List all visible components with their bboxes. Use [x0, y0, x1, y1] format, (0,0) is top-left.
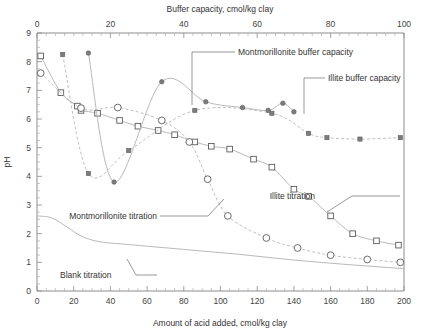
- data-point: [204, 100, 209, 105]
- annotation-mont-titration: Montmorillonite titration: [69, 211, 157, 221]
- data-point: [306, 131, 310, 135]
- data-point: [135, 123, 141, 129]
- tick-label: 7: [26, 85, 31, 95]
- y-axis-title: pH: [2, 157, 12, 168]
- data-point: [350, 231, 356, 237]
- data-point: [327, 252, 334, 259]
- chart-figure: 020406080100 020406080100120140160180200…: [0, 0, 421, 332]
- series-montmorillonite-titration: [37, 70, 403, 266]
- tick-label: 60: [142, 296, 152, 306]
- tick-label: 8: [26, 57, 31, 67]
- data-point: [240, 105, 245, 110]
- data-point: [112, 180, 117, 185]
- chart-svg: 020406080100 020406080100120140160180200…: [0, 0, 421, 332]
- data-point: [61, 52, 65, 56]
- tick-label: 0: [35, 19, 40, 29]
- data-point: [266, 108, 271, 113]
- bottom-tick-labels: 020406080100120140160180200: [35, 296, 412, 306]
- tick-label: 3: [26, 200, 31, 210]
- tick-label: 140: [287, 296, 301, 306]
- data-point: [398, 136, 402, 140]
- data-point: [294, 245, 301, 252]
- data-point: [269, 164, 275, 170]
- data-point: [38, 53, 44, 59]
- data-point: [281, 101, 286, 106]
- top-axis-title: Buffer capacity, cmol/kg clay: [167, 4, 275, 14]
- series-line: [37, 216, 404, 269]
- leader-illite-buffer: [304, 78, 325, 114]
- tick-label: 1: [26, 257, 31, 267]
- tick-label: 0: [35, 296, 40, 306]
- data-point: [325, 136, 329, 140]
- annotation-illite-buffer: Illite buffer capacity: [328, 73, 401, 83]
- data-point: [209, 143, 215, 149]
- bottom-axis-title: Amount of acid added, cmol/kg clay: [153, 318, 288, 328]
- top-tick-labels: 020406080100: [35, 19, 412, 29]
- data-point: [86, 51, 91, 56]
- data-point: [292, 110, 297, 115]
- data-point: [172, 132, 178, 138]
- tick-label: 40: [179, 19, 189, 29]
- tick-label: 6: [26, 114, 31, 124]
- annotation-mont-buffer: Montmorillonite buffer capacity: [238, 47, 354, 57]
- tick-label: 9: [26, 28, 31, 38]
- leader-illite-titration: [327, 196, 400, 212]
- tick-label: 200: [397, 296, 411, 306]
- series-illite-buffer-capacity: [61, 52, 403, 178]
- tick-label: 60: [252, 19, 262, 29]
- data-point: [114, 104, 121, 111]
- data-point: [158, 117, 165, 124]
- tick-label: 80: [179, 296, 189, 306]
- data-point: [95, 110, 101, 116]
- data-point: [374, 238, 380, 244]
- leader-mont-titration: [160, 199, 224, 216]
- tick-label: 180: [360, 296, 374, 306]
- data-point: [117, 118, 123, 124]
- data-point: [155, 128, 161, 134]
- tick-label: 120: [250, 296, 264, 306]
- tick-label: 40: [106, 296, 116, 306]
- data-point: [364, 256, 371, 263]
- tick-label: 100: [397, 19, 411, 29]
- data-point: [37, 70, 44, 77]
- data-point: [159, 79, 164, 84]
- tick-label: 2: [26, 229, 31, 239]
- tick-label: 80: [326, 19, 336, 29]
- tick-label: 100: [213, 296, 227, 306]
- data-point: [270, 111, 274, 115]
- data-point: [358, 137, 362, 141]
- data-point: [224, 212, 231, 219]
- tick-label: 160: [324, 296, 338, 306]
- tick-label: 4: [26, 171, 31, 181]
- tick-label: 0: [26, 286, 31, 296]
- data-point: [78, 105, 85, 112]
- annotation-illite-titration: Illite titration: [270, 191, 316, 201]
- y-tick-labels: 9876543210: [26, 28, 31, 296]
- tick-label: 5: [26, 143, 31, 153]
- leader-blank-titration: [127, 259, 157, 275]
- annotation-blank-titration: Blank titration: [60, 270, 112, 280]
- data-point: [328, 213, 334, 219]
- series-blank-titration: [37, 216, 404, 269]
- data-point: [227, 146, 233, 152]
- data-point: [127, 148, 131, 152]
- data-point: [204, 176, 211, 183]
- data-point: [396, 242, 402, 248]
- data-point: [251, 156, 257, 162]
- data-point: [186, 139, 193, 146]
- data-point: [86, 171, 90, 175]
- data-point: [193, 108, 197, 112]
- data-point: [263, 235, 270, 242]
- tick-label: 20: [69, 296, 79, 306]
- bottom-axis-ticks: [37, 286, 404, 291]
- tick-label: 20: [106, 19, 116, 29]
- top-axis-ticks: [37, 33, 404, 38]
- data-series-layer: [37, 51, 404, 269]
- annotation-leaders: [127, 52, 400, 275]
- data-point: [397, 259, 404, 266]
